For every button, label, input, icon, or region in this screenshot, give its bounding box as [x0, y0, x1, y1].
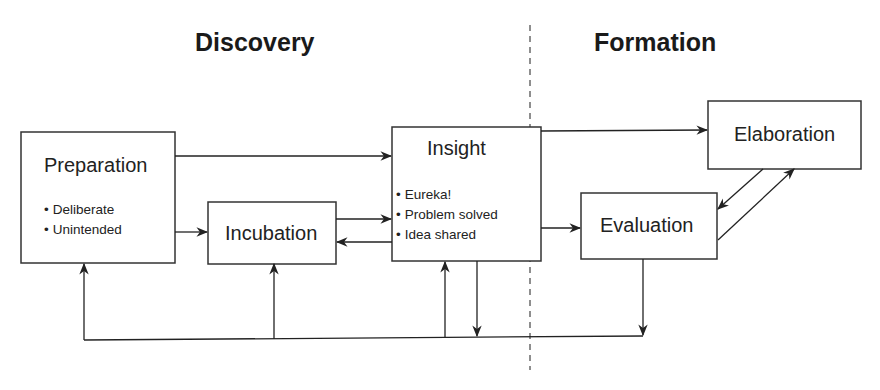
section-discovery: Discovery — [195, 28, 315, 57]
insight-bullets: Eureka! Problem solved Idea shared — [396, 185, 498, 245]
arrow-elaboration-evaluation — [718, 169, 763, 209]
evaluation-title: Evaluation — [600, 214, 693, 237]
bullet-item: Idea shared — [396, 225, 498, 245]
bullet-item: Deliberate — [44, 200, 122, 220]
elaboration-title: Elaboration — [734, 123, 835, 146]
section-formation: Formation — [594, 28, 716, 57]
insight-title: Insight — [427, 137, 486, 160]
bullet-item: Unintended — [44, 220, 122, 240]
preparation-title: Preparation — [44, 154, 147, 177]
bullet-item: Problem solved — [396, 205, 498, 225]
incubation-title: Incubation — [225, 222, 317, 245]
arrow-insight-elaboration — [541, 130, 707, 131]
arrow-evaluation-elaboration — [718, 169, 794, 240]
preparation-box — [21, 132, 175, 263]
feedback-loop-bottom — [84, 336, 643, 340]
preparation-bullets: Deliberate Unintended — [44, 200, 122, 240]
bullet-item: Eureka! — [396, 185, 498, 205]
